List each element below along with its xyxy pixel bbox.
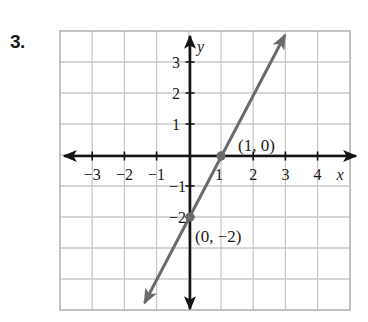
annotation-x-intercept: (1, 0)	[238, 136, 275, 155]
point-x-intercept	[216, 151, 225, 160]
y-tick-label-2: 2	[172, 85, 180, 102]
x-tick-label-1: 1	[215, 166, 223, 183]
coordinate-plane-graph: −3 −2 −1 1 2 3 4 3 2 1 −1 −2 y x (1, 0) …	[0, 0, 368, 322]
x-tick-label-neg1: −1	[148, 166, 165, 183]
y-tick-label-neg2: −2	[169, 209, 186, 226]
x-tick-label-neg2: −2	[116, 166, 133, 183]
point-y-intercept	[185, 212, 194, 221]
y-tick-label-3: 3	[172, 54, 180, 71]
graph-background	[60, 31, 350, 310]
annotation-y-intercept: (0, −2)	[195, 227, 241, 246]
worksheet-graph-figure: 3.	[0, 0, 368, 322]
x-tick-label-2: 2	[249, 166, 257, 183]
x-tick-label-4: 4	[314, 166, 322, 183]
y-tick-label-neg1: −1	[169, 178, 186, 195]
x-tick-label-neg3: −3	[84, 166, 101, 183]
x-axis-name-label: x	[335, 166, 343, 183]
y-axis-name-label: y	[195, 38, 205, 56]
x-tick-label-3: 3	[281, 166, 289, 183]
y-tick-label-1: 1	[172, 116, 180, 133]
